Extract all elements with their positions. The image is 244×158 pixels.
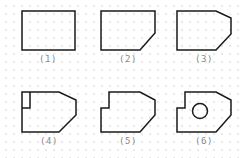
dot-grid-canvas: (1) (2) (3) (4) (5) (6) (0, 0, 244, 158)
panel-4-shape (22, 92, 76, 132)
inner-rectangle-outline (22, 92, 30, 108)
panel-1-shape (22, 11, 75, 50)
panel-6-label: (6) (195, 136, 213, 146)
panel-2-label: (2) (119, 54, 137, 64)
double-chamfered-outline (177, 11, 231, 50)
panel-5-shape (101, 92, 155, 132)
panel-3-label: (3) (195, 54, 213, 64)
chamfered-rectangle-outline (101, 11, 155, 50)
rectangle-outline (22, 11, 75, 50)
shapes-svg (0, 0, 244, 158)
panel-5-label: (5) (119, 136, 137, 146)
panel-6-shape (177, 92, 231, 132)
notched-outline (177, 92, 231, 132)
panel-4-label: (4) (40, 136, 58, 146)
panel-3-shape (177, 11, 231, 50)
panel-1-label: (1) (39, 54, 57, 64)
panel-2-shape (101, 11, 155, 50)
notched-outline (101, 92, 155, 132)
circular-hole-outline (193, 104, 208, 119)
